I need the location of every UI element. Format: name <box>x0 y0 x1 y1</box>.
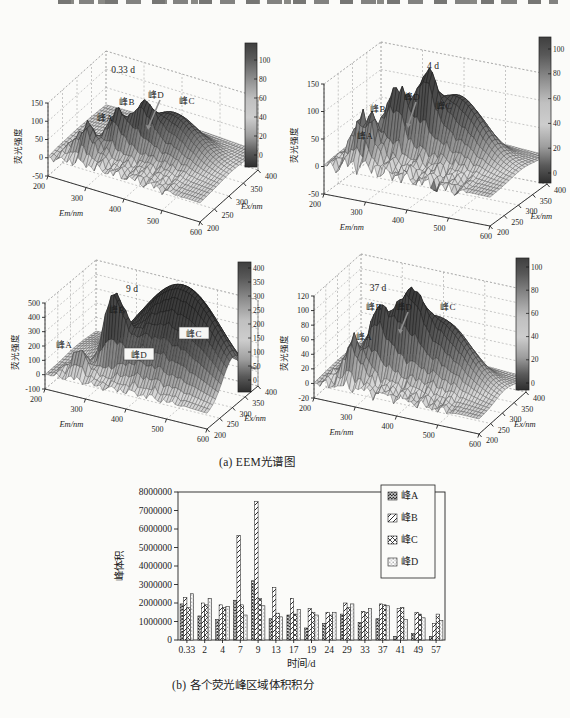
bar-峰D-9 <box>262 606 265 640</box>
legend-label: 峰D <box>401 556 418 567</box>
z-tick-label: 0 <box>315 162 319 171</box>
bar-峰B-29 <box>344 603 347 640</box>
bar-峰B-2 <box>201 603 204 640</box>
colorbar-tick-label: 20 <box>259 132 267 141</box>
colorbar-tick-label: 0 <box>259 151 263 160</box>
bar-峰A-13 <box>269 619 272 640</box>
bar-峰B-7 <box>237 535 240 640</box>
bar-x-tick-label: 17 <box>289 645 299 655</box>
ex-axis-label: Ex/nm <box>513 419 536 429</box>
em-tick-label: 400 <box>111 415 123 424</box>
colorbar: 100806040200 <box>516 258 543 390</box>
ex-tick-label: 250 <box>511 218 523 227</box>
bar-峰A-19 <box>305 628 308 640</box>
bar-峰D-49 <box>422 618 425 640</box>
bar-x-tick-label: 2 <box>202 645 207 655</box>
eem-plot-37d: 120100806040200-20荧光强度200300400500600200… <box>285 243 570 453</box>
bar-峰D-17 <box>297 609 300 640</box>
peak-label: 峰C <box>186 329 201 339</box>
colorbar-tick-label: 80 <box>531 286 539 295</box>
em-tick-label: 500 <box>434 224 446 233</box>
colorbar: 100806040200 <box>539 37 565 183</box>
em-axis-label: Em/nm <box>328 427 353 437</box>
em-axis-label: Em/nm <box>58 208 83 218</box>
bar-峰C-13 <box>276 613 279 640</box>
colorbar-tick-label: 60 <box>259 94 267 103</box>
bar-峰B-0.33 <box>184 597 187 640</box>
ex-tick-label: 200 <box>497 228 509 237</box>
z-axis-label: 荧光强度 <box>279 335 289 371</box>
legend-label: 峰B <box>401 512 418 523</box>
peak-label: 峰A <box>356 332 372 342</box>
ex-axis-label: Ex/nm <box>240 201 263 211</box>
bar-峰C-9 <box>258 598 261 640</box>
bar-峰C-17 <box>294 614 297 640</box>
bar-y-tick-label: 7000000 <box>139 506 173 516</box>
bar-峰B-4 <box>219 605 222 640</box>
bar-x-tick-label: 4 <box>220 645 225 655</box>
z-tick-label: 500 <box>28 299 40 308</box>
bar-y-tick-label: 1000000 <box>139 617 173 627</box>
bar-x-axis-label: 时间/d <box>287 657 316 669</box>
ex-tick-label: 350 <box>251 185 263 194</box>
peak-label: 峰B <box>366 302 381 312</box>
bar-峰C-41 <box>401 608 404 640</box>
peak-label: 峰A <box>56 340 72 350</box>
colorbar-tick-label: 200 <box>253 320 265 329</box>
colorbar-tick-label: 400 <box>253 264 265 273</box>
bar-x-tick-label: 41 <box>396 645 406 655</box>
colorbar-tick-label: 20 <box>553 144 561 153</box>
bar-峰A-37 <box>376 619 379 640</box>
colorbar-tick-label: 40 <box>531 332 539 341</box>
em-axis-label: Em/nm <box>58 419 83 429</box>
ex-tick-label: 250 <box>498 426 510 435</box>
legend-label: 峰A <box>401 490 419 501</box>
z-tick-label: 100 <box>28 356 40 365</box>
ex-tick-label: 350 <box>540 197 552 206</box>
em-tick-label: 500 <box>147 217 159 226</box>
bar-峰C-0.33 <box>187 608 190 640</box>
bar-峰A-24 <box>323 623 326 640</box>
z-tick-label: -50 <box>32 172 43 181</box>
ex-tick-label: 350 <box>521 405 533 414</box>
bar-x-tick-label: 57 <box>431 645 441 655</box>
bar-峰A-2 <box>198 616 201 640</box>
bar-峰C-57 <box>436 614 439 640</box>
peak-label: 峰A <box>357 131 373 141</box>
em-tick-label: 600 <box>469 440 481 449</box>
em-tick-label: 200 <box>33 182 45 191</box>
colorbar-tick-label: 50 <box>253 362 261 371</box>
z-tick-label: 100 <box>297 306 309 315</box>
caption-a: (a) EEM光谱图 <box>0 453 542 469</box>
peak-label: 峰C <box>179 96 194 106</box>
bar-峰C-37 <box>383 605 386 640</box>
bar-峰C-24 <box>329 615 332 640</box>
bar-峰D-0.33 <box>190 594 193 640</box>
scan-artifact <box>58 0 558 4</box>
ex-tick-label: 200 <box>214 431 226 440</box>
bar-峰A-4 <box>216 620 219 640</box>
caption-b: (b) 各个荧光峰区域体积积分 <box>0 676 528 692</box>
z-axis-label: 荧光强度 <box>13 128 23 164</box>
z-tick-label: 0 <box>305 379 309 388</box>
bar-y-tick-label: 0 <box>167 635 172 645</box>
bar-峰B-24 <box>326 612 329 640</box>
em-tick-label: 400 <box>382 422 394 431</box>
bar-峰C-7 <box>240 605 243 640</box>
bar-x-tick-label: 0.33 <box>179 645 196 655</box>
colorbar-tick-label: 60 <box>531 309 539 318</box>
peak-label: 峰B <box>370 104 385 114</box>
z-tick-label: 60 <box>301 335 309 344</box>
peak-label: 峰B <box>109 305 124 315</box>
colorbar-tick-label: 60 <box>553 94 561 103</box>
bar-峰C-29 <box>347 608 350 640</box>
bar-峰B-17 <box>290 598 293 640</box>
z-tick-label: 0 <box>36 370 40 379</box>
peak-volume-bar-chart: 0100000020000003000000400000050000006000… <box>115 475 460 675</box>
em-tick-label: 600 <box>480 232 492 241</box>
em-tick-label: 500 <box>152 425 164 434</box>
ex-tick-label: 350 <box>252 399 264 408</box>
z-axis-label: 荧光强度 <box>289 127 299 163</box>
bar-峰B-13 <box>273 587 276 640</box>
bar-峰C-33 <box>365 612 368 640</box>
